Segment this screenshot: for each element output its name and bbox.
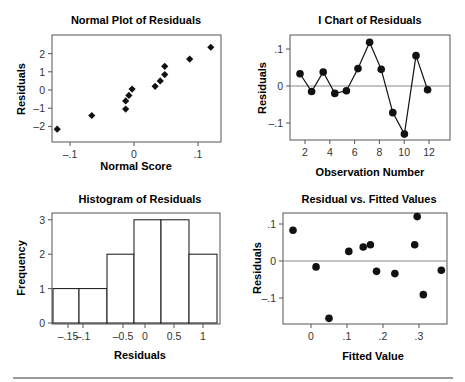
y-tick-label: 0 (277, 80, 283, 92)
x-tick-label: –.1 (76, 330, 91, 342)
normal-plot-y-axis: 210–1–2 (33, 48, 52, 133)
histogram-bar (53, 289, 79, 323)
y-tick-label: .1 (267, 218, 276, 230)
residual-vs-fitted-title: Residual vs. Fitted Values (301, 193, 436, 205)
y-tick-label: –1 (33, 102, 45, 114)
x-tick-label: –0.5 (113, 330, 134, 342)
x-tick-label: –.1 (63, 148, 78, 160)
i-chart-panel: I Chart of Residuals .10–.1 24681012 Obs… (256, 14, 450, 178)
i-chart-title: I Chart of Residuals (318, 14, 421, 26)
diamond-marker (161, 63, 168, 70)
residual-vs-fitted-x-axis: 0.1.2.3 (308, 324, 423, 342)
data-point (325, 315, 333, 323)
histogram-bar (134, 220, 161, 323)
data-point (411, 241, 419, 249)
data-point (359, 243, 367, 251)
normal-plot-panel: Normal Plot of Residuals 210–1–2 –.10.1 … (15, 14, 221, 172)
diamond-marker (186, 55, 193, 62)
data-point (401, 130, 409, 138)
residual-vs-fitted-frame (283, 213, 447, 324)
data-point (373, 268, 381, 276)
i-chart-ylabel: Residuals (256, 62, 268, 114)
y-tick-label: –2 (33, 120, 45, 132)
diamond-marker (161, 71, 168, 78)
histogram-ylabel: Frequency (15, 239, 27, 296)
histogram-bar (161, 220, 189, 323)
residual-vs-fitted-ylabel: Residuals (251, 242, 263, 294)
x-tick-label: 1 (200, 330, 206, 342)
diamond-marker (122, 106, 129, 113)
diamond-marker (207, 44, 214, 51)
diamond-marker (157, 77, 164, 84)
normal-plot-points (54, 44, 215, 133)
x-tick-label: 12 (423, 146, 435, 158)
data-point (413, 213, 421, 221)
data-point (308, 88, 316, 96)
x-tick-label: 0 (131, 148, 137, 160)
residual-vs-fitted-panel: Residual vs. Fitted Values .10–.1 0.1.2.… (251, 193, 447, 362)
data-point (296, 70, 304, 78)
data-point (377, 66, 385, 74)
x-tick-label: .1 (343, 330, 352, 342)
data-point (438, 266, 446, 274)
x-tick-label: .3 (415, 330, 424, 342)
data-point (354, 65, 362, 73)
y-tick-label: 2 (39, 248, 45, 260)
residual-plots-figure: Normal Plot of Residuals 210–1–2 –.10.1 … (0, 0, 465, 382)
i-chart-series (290, 39, 450, 138)
diamond-marker (54, 126, 61, 133)
y-tick-label: 0 (39, 84, 45, 96)
data-point (420, 291, 428, 299)
x-tick-label: 6 (352, 146, 358, 158)
residual-vs-fitted-y-axis: .10–.1 (261, 218, 283, 304)
x-tick-label: 8 (376, 146, 382, 158)
i-chart-x-axis: 24681012 (302, 140, 435, 158)
x-tick-label: 2 (302, 146, 308, 158)
histogram-bar (189, 254, 217, 323)
histogram-bars (53, 220, 217, 323)
x-tick-label: .2 (379, 330, 388, 342)
x-tick-label: 10 (398, 146, 410, 158)
normal-plot-xlabel: Normal Score (100, 160, 172, 172)
histogram-y-axis: 3210 (39, 214, 52, 329)
data-point (345, 248, 353, 256)
normal-plot-ylabel: Residuals (15, 63, 27, 115)
y-tick-label: .1 (274, 43, 283, 55)
residual-vs-fitted-xlabel: Fitted Value (342, 350, 404, 362)
histogram-title: Histogram of Residuals (79, 193, 202, 205)
diamond-marker (128, 85, 135, 92)
x-tick-label: 0 (308, 330, 314, 342)
diamond-marker (125, 92, 132, 99)
histogram-bar (107, 254, 134, 323)
data-point (424, 86, 432, 94)
diamond-marker (88, 112, 95, 119)
data-point (289, 226, 297, 234)
x-tick-label: 4 (327, 146, 333, 158)
diamond-marker (152, 83, 159, 90)
data-point (319, 68, 327, 76)
data-point (389, 109, 397, 117)
histogram-bar (79, 289, 107, 323)
series-line (300, 42, 428, 134)
data-point (331, 90, 339, 98)
y-tick-label: 1 (39, 66, 45, 78)
x-tick-label: .1 (194, 148, 203, 160)
i-chart-xlabel: Observation Number (316, 166, 426, 178)
y-tick-label: 1 (39, 283, 45, 295)
data-point (343, 87, 351, 95)
normal-plot-title: Normal Plot of Residuals (71, 14, 201, 26)
y-tick-label: –.1 (268, 117, 283, 129)
y-tick-label: 0 (39, 317, 45, 329)
y-tick-label: 3 (39, 214, 45, 226)
histogram-panel: Histogram of Residuals 3210 –.15–.1–0.50… (15, 193, 220, 361)
residual-vs-fitted-points (283, 213, 447, 322)
data-point (391, 270, 399, 278)
normal-plot-frame (52, 35, 221, 142)
data-point (366, 39, 374, 47)
data-point (412, 52, 420, 60)
data-point (312, 263, 320, 271)
x-tick-label: 0 (142, 330, 148, 342)
i-chart-y-axis: .10–.1 (268, 43, 290, 129)
y-tick-label: 0 (270, 255, 276, 267)
y-tick-label: –.1 (261, 292, 276, 304)
